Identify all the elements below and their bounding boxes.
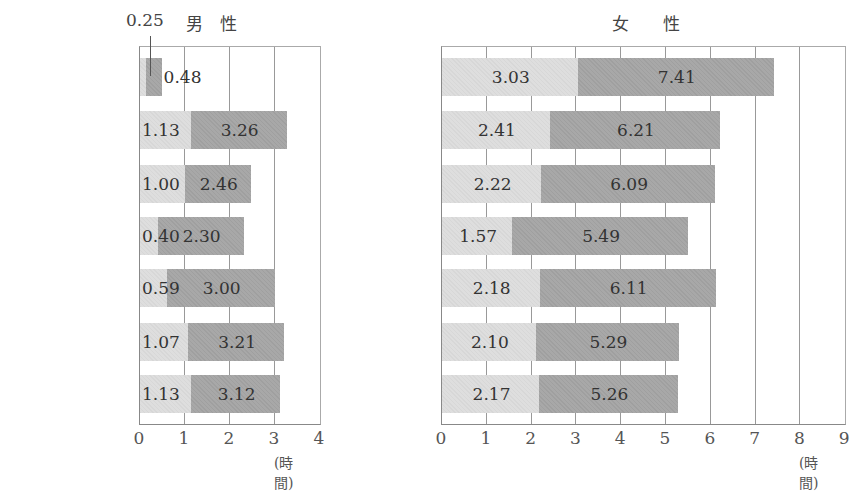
x-tick-label: 0 <box>431 428 451 448</box>
value-label-light: 2.17 <box>473 375 511 413</box>
plot-area: 0.481.133.261.002.460.402.300.593.001.07… <box>139 46 321 425</box>
x-tick-label: 4 <box>610 428 630 448</box>
value-label-light: 1.13 <box>142 375 180 413</box>
bar-row-2: 2.226.09 <box>442 165 845 203</box>
value-label-light: 2.22 <box>474 165 512 203</box>
value-label-dark: 0.48 <box>164 58 202 96</box>
bar-row-4: 2.186.11 <box>442 269 845 307</box>
value-label-dark: 6.11 <box>610 269 648 307</box>
value-label-dark: 3.21 <box>218 323 256 361</box>
value-label-light: 0.59 <box>142 269 180 307</box>
value-label-light: 0.40 <box>142 217 180 255</box>
value-label-dark: 3.00 <box>203 269 241 307</box>
annotation-label: 0.25 <box>126 10 164 30</box>
value-label-dark: 2.30 <box>183 217 221 255</box>
bar-row-3: 1.575.49 <box>442 217 845 255</box>
bar-row-3: 0.402.30 <box>140 217 320 255</box>
x-tick-label: 1 <box>476 428 496 448</box>
x-tick-label: 9 <box>834 428 854 448</box>
value-label-dark: 6.21 <box>617 111 655 149</box>
value-label-light: 1.07 <box>142 323 180 361</box>
x-tick-label: 8 <box>789 428 809 448</box>
value-label-light: 3.03 <box>492 58 530 96</box>
x-tick-label: 5 <box>655 428 675 448</box>
value-label-dark: 7.41 <box>658 58 696 96</box>
bar-row-0: 3.037.41 <box>442 58 845 96</box>
bar-row-2: 1.002.46 <box>140 165 320 203</box>
value-label-light: 2.10 <box>471 323 509 361</box>
value-label-dark: 5.49 <box>582 217 620 255</box>
bar-row-1: 1.133.26 <box>140 111 320 149</box>
bar-segment-dark <box>146 58 162 96</box>
value-label-dark: 6.09 <box>610 165 648 203</box>
x-tick-label: 6 <box>700 428 720 448</box>
bar-row-5: 1.073.21 <box>140 323 320 361</box>
x-tick-label: 3 <box>264 428 284 448</box>
x-tick-label: 1 <box>174 428 194 448</box>
x-tick-label: 2 <box>219 428 239 448</box>
value-label-light: 1.13 <box>142 111 180 149</box>
x-axis-unit: (時間) <box>274 452 293 492</box>
x-tick-label: 7 <box>745 428 765 448</box>
value-label-dark: 5.26 <box>590 375 628 413</box>
x-axis-unit: (時間) <box>799 452 818 492</box>
x-tick-label: 3 <box>565 428 585 448</box>
plot-area: 3.037.412.416.212.226.091.575.492.186.11… <box>441 46 846 425</box>
value-label-light: 1.00 <box>142 165 180 203</box>
value-label-dark: 5.29 <box>590 323 628 361</box>
value-label-light: 1.57 <box>459 217 497 255</box>
value-label-dark: 2.46 <box>200 165 238 203</box>
x-tick-label: 0 <box>129 428 149 448</box>
chart-title: 男 性 <box>186 10 237 35</box>
bar-row-6: 2.175.26 <box>442 375 845 413</box>
value-label-dark: 3.12 <box>218 375 256 413</box>
x-tick-label: 4 <box>309 428 329 448</box>
value-label-dark: 3.26 <box>221 111 259 149</box>
bar-row-4: 0.593.00 <box>140 269 320 307</box>
value-label-light: 2.18 <box>473 269 511 307</box>
bar-row-5: 2.105.29 <box>442 323 845 361</box>
bar-row-1: 2.416.21 <box>442 111 845 149</box>
bar-row-0: 0.48 <box>140 58 320 96</box>
chart-title: 女 性 <box>612 10 680 35</box>
x-tick-label: 2 <box>521 428 541 448</box>
bar-row-6: 1.133.12 <box>140 375 320 413</box>
annotation-marker <box>150 36 151 76</box>
value-label-light: 2.41 <box>478 111 516 149</box>
